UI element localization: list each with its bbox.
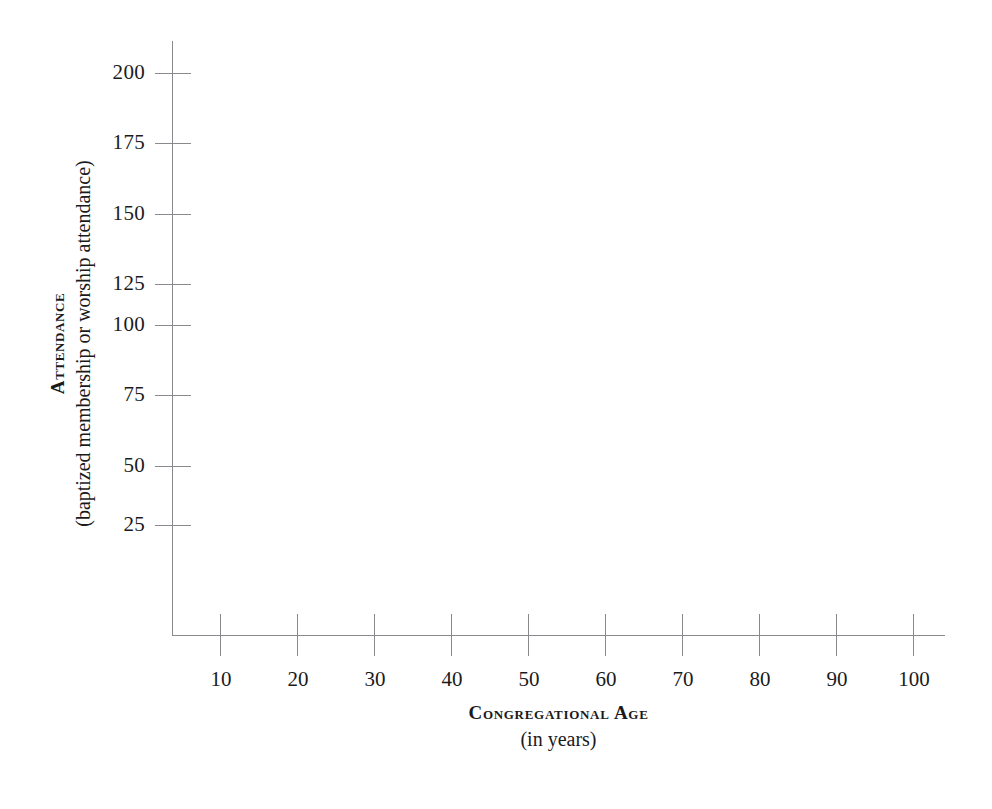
x-tick-60 (605, 614, 606, 656)
x-tick-10 (220, 614, 221, 656)
y-axis-line (172, 41, 173, 636)
x-tick-label-90: 90 (797, 668, 877, 690)
x-tick-80 (759, 614, 760, 656)
x-tick-label-70: 70 (643, 668, 723, 690)
x-axis-line (172, 635, 945, 636)
x-tick-90 (836, 614, 837, 656)
y-tick-100 (155, 325, 191, 326)
x-tick-30 (374, 614, 375, 656)
x-tick-100 (913, 614, 914, 656)
y-axis-title-sub: (baptized membership or worship attendan… (70, 64, 96, 624)
plot-area (173, 41, 945, 635)
y-tick-125 (155, 284, 191, 285)
x-tick-20 (297, 614, 298, 656)
x-tick-label-50: 50 (489, 668, 569, 690)
x-tick-label-40: 40 (412, 668, 492, 690)
x-tick-40 (451, 614, 452, 656)
x-tick-label-10: 10 (181, 668, 261, 690)
x-tick-70 (682, 614, 683, 656)
y-tick-75 (155, 395, 191, 396)
y-tick-175 (155, 143, 191, 144)
y-axis-title: Attendance (baptized membership or worsh… (45, 64, 96, 624)
x-axis-title-main: Congregational Age (172, 700, 945, 726)
chart-figure: 200 175 150 125 100 75 50 25 (0, 0, 992, 809)
x-tick-label-20: 20 (258, 668, 338, 690)
y-tick-50 (155, 466, 191, 467)
x-tick-label-100: 100 (874, 668, 954, 690)
x-tick-label-60: 60 (566, 668, 646, 690)
x-tick-label-80: 80 (720, 668, 800, 690)
x-axis-title-sub: (in years) (172, 726, 945, 753)
y-tick-150 (155, 214, 191, 215)
x-axis-title: Congregational Age (in years) (172, 700, 945, 753)
x-tick-label-30: 30 (335, 668, 415, 690)
y-axis-title-main: Attendance (45, 64, 70, 624)
y-tick-200 (155, 73, 191, 74)
y-tick-25 (155, 525, 191, 526)
x-tick-50 (528, 614, 529, 656)
